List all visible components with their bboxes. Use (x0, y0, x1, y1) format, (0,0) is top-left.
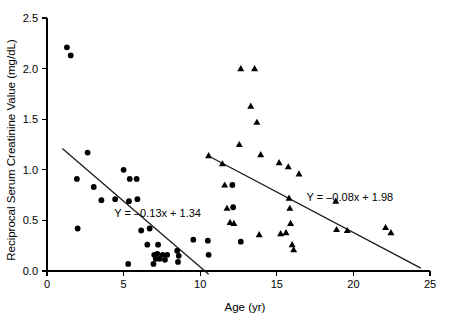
data-point-circle (98, 197, 104, 203)
data-point-circle (144, 242, 150, 248)
y-tick-label: 1.0 (23, 164, 38, 176)
data-point-triangle (277, 230, 284, 236)
data-point-triangle (236, 141, 243, 147)
y-tick-label: 1.5 (23, 113, 38, 125)
data-point-triangle (221, 181, 228, 187)
data-point-circle (205, 238, 211, 244)
data-point-circle (134, 176, 140, 182)
x-tick-label: 15 (271, 278, 283, 290)
data-point-circle (238, 239, 244, 245)
data-point-circle (162, 257, 168, 263)
late-group-fit-equation-label: Y = –0.08x + 1.98 (307, 191, 394, 203)
y-tick-label: 2.0 (23, 63, 38, 75)
data-point-circle (175, 259, 181, 265)
data-point-circle (229, 182, 235, 188)
data-point-circle (190, 237, 196, 243)
data-point-triangle (382, 224, 389, 230)
data-point-circle (126, 198, 132, 204)
data-point-circle (121, 167, 127, 173)
x-axis-title: Age (yr) (225, 301, 266, 313)
series-early-group-circles (64, 44, 244, 266)
data-point-circle (154, 251, 160, 257)
data-point-circle (75, 226, 81, 232)
data-point-circle (164, 252, 170, 258)
data-point-triangle (247, 102, 254, 108)
data-point-triangle (219, 160, 226, 166)
chart-figure: 0510152025 0.00.51.01.52.02.5 Y = –0.13x… (0, 0, 453, 318)
x-tick-label: 0 (44, 278, 50, 290)
data-point-triangle (253, 119, 260, 125)
data-point-triangle (205, 152, 212, 158)
data-point-triangle (257, 151, 264, 157)
data-point-triangle (256, 231, 263, 237)
data-point-triangle (333, 226, 340, 232)
data-points (64, 44, 394, 266)
y-tick-label: 0.0 (23, 265, 38, 277)
x-tick-label: 10 (194, 278, 206, 290)
data-point-triangle (289, 241, 296, 247)
data-point-triangle (224, 205, 231, 211)
data-point-triangle (237, 65, 244, 71)
data-point-triangle (276, 159, 283, 165)
data-point-circle (230, 204, 236, 210)
data-point-triangle (296, 170, 303, 176)
scatter-plot: 0510152025 0.00.51.01.52.02.5 Y = –0.13x… (0, 0, 453, 318)
data-point-triangle (251, 65, 258, 71)
data-point-circle (68, 53, 74, 59)
data-point-circle (64, 44, 70, 50)
y-tick-label: 2.5 (23, 12, 38, 24)
data-point-triangle (283, 229, 290, 235)
data-point-triangle (287, 220, 294, 226)
data-point-circle (112, 196, 118, 202)
data-point-circle (174, 248, 180, 254)
x-tick-label: 5 (121, 278, 127, 290)
data-point-circle (85, 150, 91, 156)
late-group-fit (209, 156, 421, 268)
data-point-circle (147, 226, 153, 232)
y-tick-label: 0.5 (23, 214, 38, 226)
data-point-circle (127, 176, 133, 182)
data-point-circle (134, 196, 140, 202)
data-point-circle (125, 261, 131, 267)
y-axis-title: Reciprocal Serum Creatinine Value (mg/dL… (5, 39, 17, 261)
series-late-group-triangles (205, 65, 394, 252)
data-point-circle (74, 176, 80, 182)
data-point-circle (176, 253, 182, 259)
data-point-triangle (286, 205, 293, 211)
data-point-circle (155, 242, 161, 248)
data-point-circle (91, 184, 97, 190)
data-point-circle (151, 261, 157, 267)
data-point-circle (206, 252, 212, 258)
x-tick-label: 25 (424, 278, 436, 290)
data-point-circle (138, 228, 144, 234)
x-tick-label: 20 (347, 278, 359, 290)
equation-labels: Y = –0.13x + 1.34Y = –0.08x + 1.98 (114, 191, 393, 219)
x-axis-tick-labels: 0510152025 (44, 278, 436, 290)
data-point-triangle (285, 163, 292, 169)
y-axis-tick-labels: 0.00.51.01.52.02.5 (23, 12, 38, 277)
early-group-fit-equation-label: Y = –0.13x + 1.34 (114, 207, 201, 219)
